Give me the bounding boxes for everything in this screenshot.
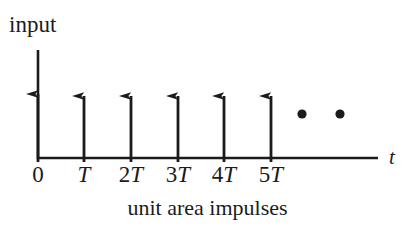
tick-coefficient-2: 2 bbox=[119, 162, 131, 187]
ellipsis-dot-2 bbox=[335, 109, 344, 118]
tick-label-4: 4T bbox=[212, 163, 236, 186]
tick-label-0: 0 bbox=[32, 163, 44, 186]
ellipsis-dots bbox=[297, 109, 344, 118]
tick-variable-3: T bbox=[177, 162, 190, 187]
figure-caption: unit area impulses bbox=[127, 197, 287, 219]
ellipsis-dot-1 bbox=[297, 109, 306, 118]
tick-label-2: 2T bbox=[119, 163, 143, 186]
tick-variable-1: T bbox=[78, 162, 91, 187]
tick-zero-text: 0 bbox=[32, 162, 44, 187]
tick-coefficient-3: 3 bbox=[166, 162, 178, 187]
impulse-arrows bbox=[38, 94, 271, 162]
tick-label-3: 3T bbox=[166, 163, 190, 186]
tick-label-1: T bbox=[78, 163, 91, 186]
tick-coefficient-4: 4 bbox=[212, 162, 224, 187]
tick-variable-5: T bbox=[270, 162, 283, 187]
x-axis-label: t bbox=[389, 147, 395, 168]
impulse-train-figure: input t 0 T 2T 3T 4T 5T unit area impuls… bbox=[0, 0, 415, 236]
tick-variable-4: T bbox=[223, 162, 236, 187]
y-axis-label: input bbox=[9, 13, 56, 36]
tick-label-5: 5T bbox=[259, 163, 283, 186]
tick-coefficient-5: 5 bbox=[259, 162, 271, 187]
tick-variable-2: T bbox=[130, 162, 143, 187]
